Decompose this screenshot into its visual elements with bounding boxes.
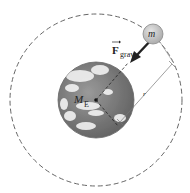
radius-label: r — [143, 90, 146, 98]
satellite-mass-label: m — [148, 28, 155, 39]
orbit-diagram: r m F grav M E — [0, 0, 190, 193]
earth-mass-symbol: M — [73, 93, 84, 105]
satellite: m — [143, 24, 163, 44]
vector-arrowhead-icon — [119, 41, 121, 44]
force-label: F grav — [112, 41, 134, 60]
force-subscript: grav — [120, 50, 134, 59]
force-symbol: F — [112, 44, 119, 56]
earth-mass-subscript: E — [84, 100, 89, 109]
satellite-extension-line — [160, 42, 173, 62]
